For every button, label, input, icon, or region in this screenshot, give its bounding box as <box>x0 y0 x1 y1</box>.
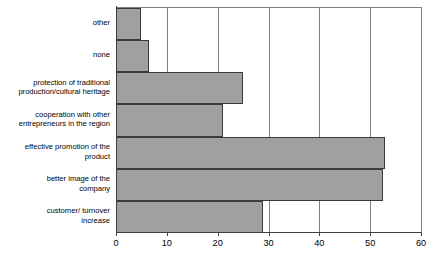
bar <box>116 104 223 136</box>
bar <box>116 8 141 40</box>
category-label: customer/ turnoverincrease <box>0 200 110 232</box>
x-axis-tick <box>167 232 168 236</box>
x-axis-tick <box>421 232 422 236</box>
category-label-line: better image of the <box>47 174 110 184</box>
bar <box>116 169 383 201</box>
bar <box>116 137 385 169</box>
category-label: cooperation with otherentrepreneurs in t… <box>0 103 110 135</box>
category-label: protection of traditionalproduction/cult… <box>0 71 110 103</box>
x-axis-tick-label: 40 <box>304 238 334 249</box>
bar-chart: othernoneprotection of traditionalproduc… <box>0 0 435 260</box>
x-axis-tick-label: 30 <box>254 238 284 249</box>
plot-area <box>116 7 422 233</box>
category-label-line: production/cultural heritage <box>18 87 110 97</box>
x-axis-tick <box>218 232 219 236</box>
bar <box>116 40 149 72</box>
category-label-line: other <box>93 18 110 28</box>
x-axis-tick-label: 20 <box>203 238 233 249</box>
x-axis-tick <box>269 232 270 236</box>
x-axis-tick-label: 50 <box>355 238 385 249</box>
category-label-line: none <box>93 50 110 60</box>
plot-inner <box>116 8 421 233</box>
category-label-line: effective promotion of the <box>25 142 110 152</box>
category-label-line: product <box>85 152 110 162</box>
category-label: other <box>0 7 110 39</box>
x-axis-tick-label: 60 <box>406 238 435 249</box>
category-label-line: company <box>79 184 110 194</box>
category-label-line: customer/ turnover <box>47 206 110 216</box>
x-axis-tick-label: 0 <box>101 238 131 249</box>
x-axis-tick-label: 10 <box>152 238 182 249</box>
y-axis-line <box>116 6 117 233</box>
category-label-line: cooperation with other <box>35 110 110 120</box>
bar <box>116 201 263 233</box>
category-label: better image of thecompany <box>0 168 110 200</box>
category-label-line: increase <box>81 216 110 226</box>
category-axis-labels: othernoneprotection of traditionalproduc… <box>0 7 113 232</box>
category-label-line: entrepreneurs in the region <box>19 119 110 129</box>
category-label-line: protection of traditional <box>33 78 110 88</box>
x-axis-tick <box>116 232 117 236</box>
bar <box>116 72 243 104</box>
x-axis-tick <box>319 232 320 236</box>
category-label: effective promotion of theproduct <box>0 136 110 168</box>
category-label: none <box>0 39 110 71</box>
x-axis-tick <box>370 232 371 236</box>
